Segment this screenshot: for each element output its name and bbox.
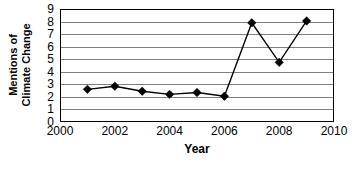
data-point-marker (138, 87, 146, 95)
plot-area (60, 9, 334, 122)
x-axis-tick-label: 2002 (101, 124, 128, 138)
axis-frame (61, 10, 334, 122)
y-axis-tick-label: 6 (47, 41, 54, 53)
data-point-marker (248, 19, 256, 27)
data-point-marker (193, 88, 201, 96)
x-axis-ticks (60, 10, 334, 123)
x-axis-title: Year (60, 142, 334, 156)
y-axis-tick-label: 5 (47, 53, 54, 65)
y-axis-tick-label: 3 (47, 78, 54, 90)
line-chart: Mentions of Climate Change 0123456789 20… (0, 0, 354, 174)
data-point-marker (302, 17, 310, 25)
y-axis-tick-label: 2 (47, 91, 54, 103)
y-axis-title: Mentions of Climate Change (0, 0, 40, 130)
x-axis-tick-label: 2000 (47, 124, 74, 138)
y-axis-tick-label: 1 (47, 103, 54, 115)
x-axis-tick-label: 2008 (266, 124, 293, 138)
x-axis-tick-label: 2010 (321, 124, 348, 138)
data-point-marker (111, 82, 119, 90)
plot-svg (60, 9, 334, 122)
x-axis-tick-label: 2006 (211, 124, 238, 138)
x-axis-tick-labels: 200020022004200620082010 (60, 124, 334, 140)
y-axis-title-line1: Mentions of (7, 23, 20, 106)
data-point-marker (220, 92, 228, 100)
y-axis-tick-label: 7 (47, 28, 54, 40)
y-axis-tick-label: 8 (47, 16, 54, 28)
y-axis-tick-labels: 0123456789 (38, 9, 57, 122)
y-axis-tick-label: 4 (47, 66, 54, 78)
y-axis-tick-label: 9 (47, 3, 54, 15)
data-point-marker (83, 85, 91, 93)
y-axis-title-line2: Climate Change (20, 23, 33, 106)
x-axis-tick-label: 2004 (156, 124, 183, 138)
